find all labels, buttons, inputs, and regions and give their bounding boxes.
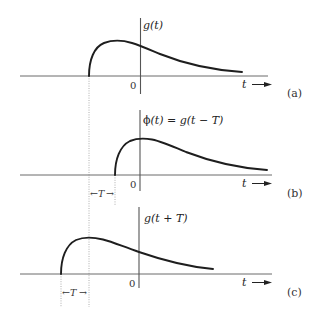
curve-phi: [115, 139, 267, 175]
t-arrow-icon-a: [264, 82, 272, 87]
origin-label-b: 0: [130, 179, 136, 190]
panel-a: g(t) 0 t (a): [20, 18, 302, 100]
right-arrow-icon-b: →: [106, 188, 114, 199]
time-shift-diagram: g(t) 0 t (a) ϕ(t) = g(t − T) 0 t (b) ← T…: [0, 0, 316, 326]
panel-tag-b: (b): [287, 187, 303, 200]
function-label-b: ϕ(t) = g(t − T): [143, 114, 223, 127]
curve-g-advanced: [61, 238, 213, 274]
panel-tag-a: (a): [287, 87, 302, 100]
right-arrow-icon-c: →: [79, 287, 87, 298]
shift-label-c: T: [70, 287, 77, 298]
panel-b: ϕ(t) = g(t − T) 0 t (b) ← T →: [20, 110, 303, 200]
t-arrow-icon-c: [264, 280, 272, 285]
panel-c: g(t + T) 0 t (c) ← T →: [20, 207, 302, 299]
t-axis-label-a: t: [242, 78, 247, 91]
shift-label-b: T: [98, 188, 105, 199]
function-label-a: g(t): [143, 19, 163, 32]
left-arrow-icon-c: ←: [62, 287, 70, 298]
t-axis-label-c: t: [242, 276, 247, 289]
shift-indicator-b: ← T →: [90, 188, 114, 199]
curve-g: [89, 41, 242, 76]
panel-tag-c: (c): [287, 286, 302, 299]
origin-label-a: 0: [130, 80, 136, 91]
origin-label-c: 0: [129, 278, 135, 289]
shift-indicator-c: ← T →: [62, 287, 87, 298]
t-arrow-icon-b: [264, 181, 272, 186]
left-arrow-icon-b: ←: [90, 188, 98, 199]
t-axis-label-b: t: [242, 177, 247, 190]
function-label-c: g(t + T): [144, 212, 188, 225]
